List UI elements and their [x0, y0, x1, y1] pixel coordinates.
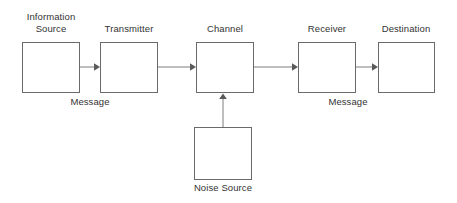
- edge-channel-to-receiver: [254, 63, 298, 71]
- node-transmitter[interactable]: [100, 42, 158, 93]
- label-transmitter: Transmitter: [88, 23, 170, 35]
- label-channel: Channel: [184, 23, 266, 35]
- label-destination: Destination: [365, 23, 447, 35]
- edge-source-to-transmitter: [80, 63, 100, 71]
- node-channel[interactable]: [196, 42, 254, 93]
- node-receiver[interactable]: [298, 42, 356, 93]
- label-noise-source: Noise Source: [182, 182, 264, 194]
- node-noise-source[interactable]: [194, 127, 252, 180]
- node-information-source[interactable]: [22, 42, 80, 93]
- edge-receiver-to-destination: [356, 63, 378, 71]
- label-message-left: Message: [50, 96, 130, 108]
- edge-transmitter-to-channel: [158, 63, 196, 71]
- label-message-right: Message: [308, 96, 388, 108]
- diagram-canvas: Information Source Transmitter Channel R…: [0, 0, 457, 203]
- edge-noise-to-channel: [219, 94, 227, 128]
- node-destination[interactable]: [378, 42, 435, 93]
- label-information-source: Information Source: [10, 11, 92, 34]
- label-receiver: Receiver: [286, 23, 368, 35]
